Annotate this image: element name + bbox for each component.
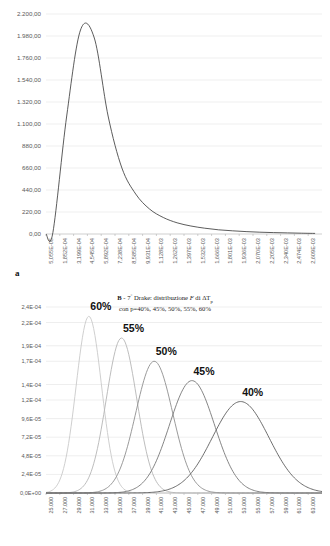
panel-b-series-line	[46, 402, 322, 493]
panel-b-x-tick-label: 47.000	[200, 497, 206, 514]
panel-a-x-tick-label: 1,852E-04	[62, 238, 68, 264]
panel-a-y-tick-label: 1.100,00	[17, 120, 42, 127]
panel-a-x-tick-label: 1,666E-03	[214, 238, 220, 264]
panel-b-y-axis-labels: 0,0E+002,4E-054,8E-057,2E-059,6E-051,2E-…	[20, 304, 41, 496]
panel-a-gridlines	[46, 14, 322, 236]
panel-a-svg: 0,00220,00440,00660,00880,001.100,001.32…	[0, 0, 330, 285]
panel-a-y-tick-label: 2.200,00	[17, 10, 42, 17]
panel-a-x-axis-labels: 5,055E-051,852E-043,199E-044,545E-045,89…	[48, 238, 316, 264]
panel-a-x-tick-label: 7,238E-04	[117, 238, 123, 264]
panel-b-series-line	[46, 381, 322, 493]
panel-b-y-tick-label: 1,7E-04	[21, 358, 41, 364]
panel-a-y-axis-labels: 0,00220,00440,00660,00880,001.100,001.32…	[17, 10, 42, 237]
panel-b-x-tick-label: 51.000	[227, 497, 233, 514]
panel-b-x-tick-label: 41.000	[158, 497, 164, 514]
panel-a-x-tick-label: 2,474E-03	[296, 238, 302, 264]
panel-b-series-line	[46, 361, 322, 493]
panel-b-x-tick-label: 49.000	[214, 497, 220, 514]
panel-b-series-labels: 60%55%50%45%40%	[90, 300, 263, 397]
panel-b-y-tick-label: 9,6E-05	[21, 416, 41, 422]
panel-a-y-tick-label: 1.760,00	[17, 54, 42, 61]
panel-b-x-tick-label: 39.000	[145, 497, 151, 514]
panel-a-x-tick-label: 8,585E-04	[131, 238, 137, 264]
panel-b-gridlines	[46, 307, 322, 495]
panel-a-y-tick-label: 1.540,00	[17, 76, 42, 83]
panel-b-x-tick-label: 25.000	[48, 497, 54, 514]
panel-a-x-tick-label: 2,070E-03	[255, 238, 261, 264]
panel-a-y-tick-label: 1.980,00	[17, 32, 42, 39]
panel-b-x-tick-label: 35.000	[117, 497, 123, 514]
panel-b-series-group	[46, 316, 322, 493]
panel-a-x-tick-label: 5,892E-04	[103, 238, 109, 264]
panel-b-x-tick-label: 31.000	[89, 497, 95, 514]
panel-b-y-tick-label: 7,2E-05	[21, 434, 41, 440]
panel-a-x-tick-label: 1,532E-03	[200, 238, 206, 264]
panel-b-chart: 0,0E+002,4E-054,8E-057,2E-059,6E-051,2E-…	[0, 285, 330, 546]
panel-b-x-tick-label: 63.000	[310, 497, 316, 514]
panel-b-y-tick-label: 1,9E-04	[21, 343, 41, 349]
panel-b-svg: 0,0E+002,4E-054,8E-057,2E-059,6E-051,2E-…	[0, 285, 330, 546]
panel-b-x-tick-label: 61.000	[296, 497, 302, 514]
panel-b-series-line	[46, 316, 322, 493]
panel-a-y-tick-label: 1.320,00	[17, 98, 42, 105]
panel-b-x-tick-label: 27.000	[62, 497, 68, 514]
panel-b-plot-area: 0,0E+002,4E-054,8E-057,2E-059,6E-051,2E-…	[0, 285, 330, 546]
panel-b-series-label: 45%	[193, 365, 215, 377]
panel-a-x-tick-label: 9,931E-04	[145, 238, 151, 264]
panel-a-y-tick-label: 0,00	[29, 230, 42, 237]
panel-b-series-label: 50%	[156, 345, 178, 357]
panel-b-x-tick-label: 37.000	[131, 497, 137, 514]
panel-b-series-label: 60%	[90, 300, 112, 312]
panel-b-x-tick-label: 53.000	[241, 497, 247, 514]
panel-a-x-tick-label: 4,545E-04	[89, 238, 95, 264]
panel-b-y-tick-label: 0,0E+00	[20, 490, 41, 496]
panel-b-y-tick-label: 4,8E-05	[21, 453, 41, 459]
panel-a-x-tick-label: 1,128E-03	[158, 238, 164, 264]
panel-b-y-tick-label: 2,4E-05	[21, 471, 41, 477]
panel-a-y-tick-label: 440,00	[22, 186, 41, 193]
panel-b-x-tick-label: 57.000	[269, 497, 275, 514]
panel-a-x-tick-label: 5,055E-05	[48, 238, 54, 264]
panel-a-chart: 0,00220,00440,00660,00880,001.100,001.32…	[0, 0, 330, 285]
panel-b-y-tick-label: 2,2E-04	[21, 320, 41, 326]
panel-b-x-tick-label: 45.000	[186, 497, 192, 514]
panel-b-y-tick-label: 2,4E-04	[21, 304, 41, 310]
panel-b-x-tick-label: 43.000	[172, 497, 178, 514]
panel-b-x-tick-label: 59.000	[283, 497, 289, 514]
panel-a-x-tick-label: 2,340E-03	[283, 238, 289, 264]
panel-a-plot-area: 0,00220,00440,00660,00880,001.100,001.32…	[0, 0, 330, 285]
panel-b-x-axis-labels: 25.00027.00029.00031.00033.00035.00037.0…	[48, 497, 316, 514]
panel-b-y-tick-label: 1,4E-04	[21, 382, 41, 388]
panel-a-x-tick-label: 1,936E-03	[241, 238, 247, 264]
panel-a-x-tick-label: 2,609E-03	[310, 238, 316, 264]
panel-b-series-label: 40%	[242, 386, 264, 398]
panel-b-x-tick-label: 29.000	[76, 497, 82, 514]
panel-a-x-tick-label: 2,205E-03	[269, 238, 275, 264]
panel-a-y-tick-label: 660,00	[22, 164, 41, 171]
panel-b-series-label: 55%	[123, 322, 145, 334]
panel-a-x-tick-label: 1,397E-03	[186, 238, 192, 264]
panel-b-y-tick-label: 1,2E-04	[21, 397, 41, 403]
panel-a-x-tick-label: 3,199E-04	[76, 238, 82, 264]
panel-a-x-tick-label: 1,801E-03	[227, 238, 233, 264]
panel-a-x-tick-label: 1,262E-03	[172, 238, 178, 264]
panel-a-series-line	[46, 23, 315, 242]
panel-b-x-tick-label: 33.000	[103, 497, 109, 514]
panel-a-y-tick-label: 220,00	[22, 208, 41, 215]
panel-a-y-tick-label: 880,00	[22, 142, 41, 149]
panel-a-letter: a	[15, 268, 20, 278]
panel-b-x-tick-label: 55.000	[255, 497, 261, 514]
